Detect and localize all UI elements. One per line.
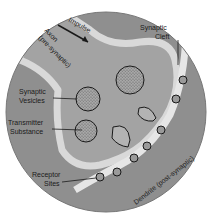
vesicles-label-1: Synaptic — [19, 88, 46, 96]
vesicles-label-2: Vesicles — [19, 97, 45, 104]
vesicle — [75, 120, 97, 142]
vesicle — [116, 66, 144, 94]
transmitter-label-1: Transmitter — [8, 119, 44, 126]
synaptic-cleft-label-2: Cleft — [155, 33, 169, 40]
synaptic-cleft-label-1: Synaptic — [140, 24, 167, 32]
receptor-label-1: Receptor — [32, 171, 61, 179]
receptor-label-2: Sites — [44, 180, 60, 187]
vesicle — [76, 87, 100, 111]
transmitter-label-2: Substance — [10, 128, 43, 135]
synapse-diagram: Impulse Axon (pre-synaptic) Synaptic Cle… — [0, 0, 211, 218]
